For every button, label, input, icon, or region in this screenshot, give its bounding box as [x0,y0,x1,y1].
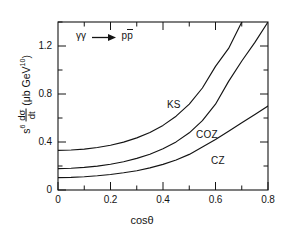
y-axis-title-unit-exponent: 10 [19,59,26,67]
xtick-label-0.4: 0.4 [149,194,177,205]
xtick-label-0.2: 0.2 [97,194,125,205]
y-axis-title-s-exponent: 6 [19,125,26,129]
curve-label-ks: KS [167,99,181,110]
y-axis-title-s: s [20,129,32,134]
figure-container: γγ pp 0 0.4 0.8 1.2 0 0.2 0.4 0.6 0.8 KS… [0,0,284,237]
plot-svg [0,0,284,237]
x-axis-title: cosθ [0,214,284,226]
reaction-initial-state: γγ [76,30,86,41]
y-axis-title-fraction: dσ dt [16,109,37,122]
xtick-label-0: 0 [44,194,72,205]
reaction-final-state-pbar: p [127,30,133,41]
xtick-label-0.6: 0.6 [202,194,230,205]
reaction-annotation: γγ pp [76,30,133,41]
y-axis-title-unit-close: ) [20,55,32,59]
y-axis-title-denominator: dt [27,109,37,122]
curve-label-cz: CZ [211,155,225,166]
curve-label-coz: COZ [196,129,218,140]
y-axis-title: s6 dσ dt (μb GeV10) [17,19,38,169]
y-axis-title-unit-open: (μb GeV [20,66,32,105]
curve-coz [58,22,268,169]
xtick-label-0.8: 0.8 [254,194,282,205]
